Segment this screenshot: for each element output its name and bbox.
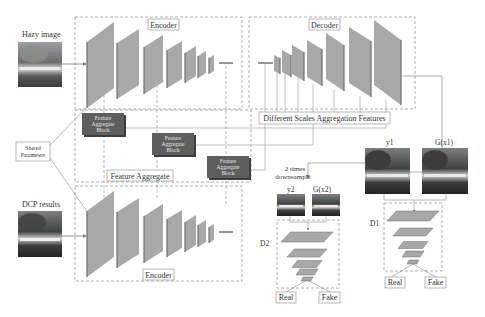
fab-2-line-3: Block	[166, 147, 179, 153]
encoder-bottom-layer-4	[167, 210, 182, 257]
encoder-bottom-label: Encoder	[145, 271, 172, 280]
discriminator-d1-layers	[387, 211, 439, 264]
d2-layer-2	[287, 249, 327, 257]
hazy-image-label: Hazy image	[22, 30, 61, 39]
d2-fake-label: Fake	[322, 293, 338, 302]
encoder-bottom-layers	[87, 191, 214, 277]
d1-layer-3	[398, 242, 428, 249]
y1-image	[365, 148, 410, 194]
shared-parameters-line-2: Parameters	[21, 152, 45, 158]
g-x1-image	[422, 148, 468, 194]
decoder-layer-3	[292, 45, 304, 81]
encoder-bottom-layer-3	[144, 204, 163, 263]
fab-3-line-3: Block	[221, 170, 234, 176]
d1-layer-2	[393, 228, 433, 236]
decoder-label: Decoder	[311, 21, 338, 30]
downsample-line	[308, 163, 365, 178]
feature-aggregate-block-3: Feature Aggregate Block	[207, 156, 251, 180]
g-x2-label: G(x2)	[313, 185, 331, 194]
encoder-bottom-layer-7	[209, 224, 214, 243]
d2-layer-5	[301, 277, 313, 281]
d2-layer-3	[292, 261, 322, 268]
encoder-bottom-layer-2	[117, 198, 139, 268]
d1-label: D1	[370, 219, 379, 228]
decoder-layer-7	[374, 20, 401, 105]
decoder-layers	[274, 20, 401, 105]
d2-real-fake-lines	[286, 280, 330, 292]
y2-label: y2	[287, 185, 295, 194]
encoder-top-layers	[87, 22, 214, 108]
y2-image	[277, 194, 305, 216]
shared-parameters-line-1: Shared	[25, 145, 41, 151]
encoder-bottom-layer-6	[198, 220, 206, 247]
d1-layer-5	[407, 260, 419, 264]
encoder-top-label: Encoder	[150, 21, 177, 30]
d1-fake-label: Fake	[428, 278, 444, 287]
aggregation-features-label: Different Scales Aggregation Features	[263, 114, 385, 123]
discriminator-d2-layers	[281, 232, 333, 281]
hazy-image	[18, 42, 62, 87]
dcp-results-label: DCP results	[22, 200, 60, 209]
decoder-layer-5	[326, 33, 344, 91]
decoder-layer-6	[349, 27, 371, 97]
y1-label: y1	[386, 138, 394, 147]
d2-layer-1	[281, 232, 333, 242]
encoder-top-layer-5	[185, 46, 196, 83]
encoder-top-layer-4	[167, 41, 182, 88]
fab-1-line-3: Block	[96, 127, 109, 133]
encoder-top-layer-7	[209, 55, 214, 74]
encoder-top-layer-6	[198, 51, 206, 78]
g-x2-image	[312, 194, 340, 216]
encoder-top-layer-3	[144, 35, 163, 94]
d1-layer-4	[402, 251, 424, 257]
d2-layer-4	[296, 269, 318, 275]
encoder-top-layer-2	[117, 29, 139, 99]
g-x1-label: G(x1)	[435, 138, 453, 147]
d1-layer-1	[387, 211, 439, 221]
feature-aggregate-block-2: Feature Aggregate Block	[152, 133, 196, 157]
downsample-label-line-1: 2 times	[285, 165, 306, 173]
feature-aggregate-label: Feature Aggregate	[111, 172, 170, 181]
dcp-results-image	[18, 211, 62, 257]
downsample-label-line-2: downsample	[275, 173, 310, 181]
d2-real-label: Real	[279, 293, 294, 302]
d1-real-label: Real	[388, 278, 403, 287]
feature-aggregate-block-1: Feature Aggregate Block	[82, 113, 126, 137]
encoder-bottom-layer-5	[185, 215, 196, 252]
network-diagram: Hazy image DCP results Shared Parameters…	[0, 0, 485, 317]
shared-parameters-box: Shared Parameters	[16, 142, 50, 161]
encoder-top-layer-1	[87, 22, 114, 108]
decoder-layer-4	[307, 40, 322, 86]
d1-real-fake-lines	[391, 264, 436, 277]
encoder-bottom-layer-1	[87, 191, 114, 277]
d2-label: D2	[260, 239, 269, 248]
decoder-layer-2	[282, 50, 291, 77]
